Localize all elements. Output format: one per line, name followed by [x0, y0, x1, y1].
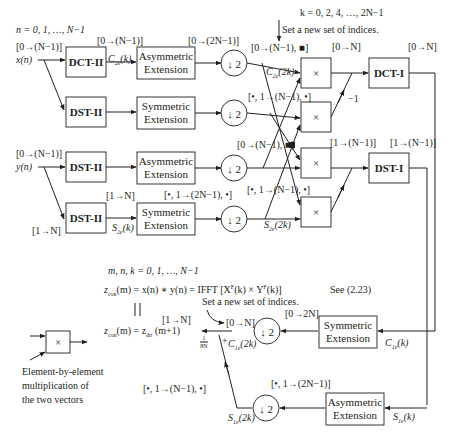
legend-symbol: ×	[55, 337, 61, 348]
legend-input-2	[30, 352, 45, 360]
downsample-s1e-label: ↓ 2	[259, 403, 273, 415]
set-new-indices-bottom: Set a new set of indices.	[202, 296, 299, 307]
mult2-arrowhead	[338, 90, 344, 103]
scale-denominator: 8N	[200, 343, 208, 349]
ds-c1e-out-range: [0→N]	[226, 317, 255, 328]
multiplier-4-symbol: ×	[313, 207, 319, 218]
y-to-dst2b-arrow	[44, 167, 64, 219]
multiplier-3-symbol: ×	[313, 158, 319, 169]
sym-out-in-range: [0→2N]	[285, 308, 319, 319]
see-reference: See (2.23)	[330, 284, 371, 296]
s1e-k-label: S1e(k)	[393, 411, 415, 424]
scale-numerator: 1	[203, 335, 206, 341]
legend: × Element-by-element multiplication of t…	[22, 331, 104, 405]
c2e-2k-label: C2e(2k)	[266, 66, 295, 79]
mult-dst1-in-range: [1→(N−1)]	[330, 137, 376, 149]
ds-c2e-out-range: [0→(N−1), ■]	[251, 42, 308, 54]
dct2-x-label: DCT-II	[69, 56, 103, 68]
s2e-2k-label: S2e(2k)	[264, 219, 291, 232]
dst1-out-range: [1→(N−1)]	[390, 137, 436, 149]
asym-out-label-2: Extension	[333, 409, 377, 421]
dst1-label: DST-I	[375, 162, 403, 174]
y-input-range: [0→(N−1)]	[16, 148, 62, 160]
dct1-output-line	[409, 73, 435, 318]
result-range: [1→N]	[162, 314, 191, 325]
downsample-c1e-label: ↓ 2	[260, 326, 274, 338]
ds-s2e-out-range: [•, 1→(N−1), •]	[247, 184, 310, 196]
dct2-out-range: [0→(N−1)]	[97, 35, 143, 47]
legend-text-1: Element-by-element	[22, 366, 104, 377]
c1e-2k-label: C1e(2k)	[228, 338, 257, 351]
asym-out-label-1: Asymmetric	[328, 396, 382, 408]
multiplier-2-symbol: ×	[313, 112, 319, 123]
dct1-out-range: [0→N]	[408, 41, 437, 52]
downsample-asym-y-label: ↓ 2	[227, 163, 241, 175]
index-range-n: n = 0, 1, …, N−1	[16, 24, 85, 35]
mult4-arrowhead	[338, 185, 344, 198]
symx-to-mult2	[247, 113, 300, 118]
sym-y-label-2: Extension	[144, 219, 188, 231]
s1e-arrowhead	[225, 362, 229, 375]
set-new-indices-top: Set a new set of indices.	[282, 24, 379, 35]
asym-out-out-range: [•, 1→(2N−1)]	[271, 378, 331, 390]
legend-text-3: the two vectors	[22, 394, 83, 405]
downsample-sym-x-label: ↓ 2	[227, 108, 241, 120]
zdtt-equation: zcon(m) = zdtt (m+1)	[103, 325, 180, 338]
crossing-marker	[289, 142, 295, 148]
curved-index-arrow	[207, 310, 224, 323]
s1e-2k-label: S1e(2k)	[228, 412, 255, 425]
asym-y-label-1: Asymmetric	[139, 155, 193, 167]
asym-x-out-range: [0→(2N−1)]	[188, 35, 239, 47]
x-to-dst2-arrow	[44, 60, 64, 110]
downsample-c2e-label: ↓ 2	[227, 58, 241, 70]
x-input-label: x(n)	[15, 54, 33, 66]
index-range-mnk: m, n, k = 0, 1, …, N−1	[108, 265, 199, 276]
c1e-k-label: C1e(k)	[385, 337, 409, 350]
minus-one-label: −1	[348, 93, 359, 104]
ds-asym-y-out-range: [0→(N−1), ■]	[237, 139, 294, 151]
sym-out-label-2: Extension	[326, 332, 370, 344]
multiplier-1-symbol: ×	[313, 68, 319, 79]
mult-dct1-in-range: [0→N]	[332, 41, 361, 52]
c2e-k-label: C2e(k)	[108, 53, 132, 66]
asym-x-label-2: Extension	[144, 63, 188, 75]
y-dst-in-range: [1→N]	[32, 225, 61, 236]
sym-y-out-range: [•, 1→(2N−1), •]	[164, 189, 232, 201]
x-input-range: [0→(N−1)]	[16, 41, 62, 53]
dst2-y1-label: DST-II	[70, 161, 103, 173]
sym-y-in-range: [1→N]	[106, 190, 135, 201]
sym-y-label-1: Symmetric	[142, 206, 190, 218]
downsample-s2e-label: ↓ 2	[227, 214, 241, 226]
ds-s1e-out-range: [•, 1→(N−1), •]	[143, 383, 206, 395]
asym-x-label-1: Asymmetric	[139, 50, 193, 62]
convolution-block-diagram: n = 0, 1, …, N−1 k = 0, 2, 4, …, 2N−1 Se…	[0, 0, 451, 440]
dst2-y2-label: DST-II	[70, 212, 103, 224]
sym-out-label-1: Symmetric	[324, 319, 372, 331]
dst2-x-label: DST-II	[70, 106, 103, 118]
index-range-k: k = 0, 2, 4, …, 2N−1	[300, 7, 384, 18]
sym-x-label-2: Extension	[144, 113, 188, 125]
ds-sym-x-out-range: [•, 1→(N−1), •]	[248, 91, 311, 103]
dct1-label: DCT-I	[374, 67, 404, 79]
legend-text-2: multiplication of	[22, 380, 90, 391]
sym-x-label-1: Symmetric	[142, 100, 190, 112]
y-input-label: y(n)	[15, 161, 33, 173]
s2e-k-label: S2e(k)	[112, 222, 134, 235]
dst1-output-line	[409, 168, 427, 405]
asym-y-label-2: Extension	[144, 168, 188, 180]
